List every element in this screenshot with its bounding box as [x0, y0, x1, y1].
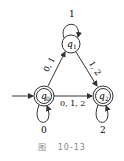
state-q0-sub: 0	[46, 95, 50, 102]
loop-q0	[37, 105, 49, 122]
state-q1: q 1	[62, 35, 80, 53]
loop-q2	[96, 105, 108, 122]
edge-q1-q2-label: 1, 2	[87, 60, 103, 78]
loop-q0-label: 0	[41, 125, 47, 135]
edge-q0-q1-label: 0, 1	[42, 56, 57, 74]
state-q2: q 2	[93, 86, 113, 106]
figure-caption: 图 10-13	[0, 141, 124, 152]
loop-q1-label: 1	[69, 9, 75, 19]
state-q1-sub: 1	[73, 43, 77, 50]
caption-number: 10-13	[58, 143, 86, 152]
state-q2-sub: 2	[105, 95, 109, 102]
edge-q0-q2-label: 0, 1, 2	[60, 99, 85, 108]
state-q0: q 0	[34, 86, 54, 106]
loop-q2-label: 2	[100, 125, 106, 135]
automaton-diagram: q 0 q 1 q 2 1 0, 1 1, 2 0, 1, 2 0 2	[0, 0, 124, 161]
caption-prefix: 图	[38, 143, 47, 152]
